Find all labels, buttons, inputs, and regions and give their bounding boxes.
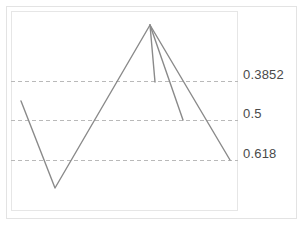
gridline-label-0-3852: 0.3852 xyxy=(243,68,284,81)
series-group xyxy=(21,25,230,188)
chart-screenshot: 0.3852 0.5 0.618 xyxy=(0,0,306,231)
gridlines-group xyxy=(11,82,238,161)
series-price-path xyxy=(21,25,150,188)
gridline-label-0-618: 0.618 xyxy=(243,147,277,160)
gridline-label-0-5: 0.5 xyxy=(243,107,262,120)
series-retracement-0.618 xyxy=(150,25,230,160)
